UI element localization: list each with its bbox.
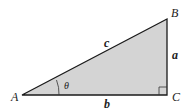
side-label-adjacent: b	[104, 97, 110, 111]
triangle-figure: A B C c a b θ	[0, 0, 189, 111]
right-triangle-diagram: A B C c a b θ	[0, 0, 189, 111]
triangle-shape	[22, 19, 167, 95]
side-label-opposite: a	[172, 48, 178, 62]
side-label-hypotenuse: c	[104, 36, 110, 50]
angle-label-theta: θ	[64, 80, 69, 91]
vertex-label-a: A	[10, 90, 19, 104]
vertex-label-c: C	[172, 90, 181, 104]
vertex-label-b: B	[171, 6, 179, 20]
